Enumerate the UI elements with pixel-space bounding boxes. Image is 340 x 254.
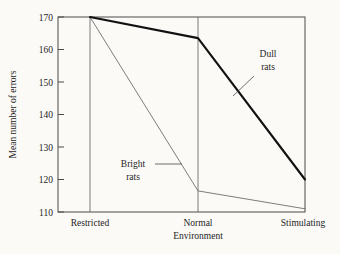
line-chart: 170 160 150 140 130 120 110 Mean number … [0,0,340,254]
ytick-label-130: 130 [39,143,54,153]
ytick-label-150: 150 [39,78,54,88]
ytick-label-110: 110 [39,208,53,218]
ytick-label-140: 140 [39,110,54,120]
series-label-dull-line2: rats [261,62,275,72]
chart-page: 170 160 150 140 130 120 110 Mean number … [0,0,340,254]
series-line-bright-rats [90,17,305,209]
series-label-dull-line1: Dull [260,49,277,59]
series-label-bright-line1: Bright [121,159,146,169]
plot-frame [58,17,305,212]
y-axis-title: Mean number of errors [8,70,18,158]
leader-line-dull-rats [233,76,254,96]
xtick-label-normal: Normal [183,218,212,228]
series-line-dull-rats [90,17,305,180]
series-label-bright-line2: rats [126,172,140,182]
xtick-label-restricted: Restricted [71,218,110,228]
xtick-label-stimulating: Stimulating [281,218,326,228]
x-axis-title: Environment [173,231,223,241]
ytick-label-120: 120 [39,175,54,185]
ytick-label-170: 170 [39,13,54,23]
ytick-label-160: 160 [39,45,54,55]
